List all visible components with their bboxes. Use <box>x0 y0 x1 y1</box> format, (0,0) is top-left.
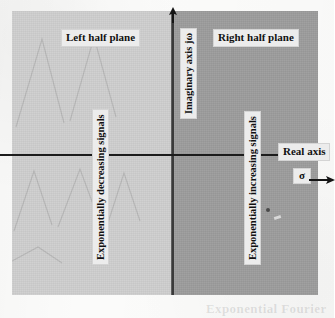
page-bleed-through-text: Exponential Fourier <box>206 301 327 317</box>
label-left-half-plane: Left half plane <box>61 29 140 47</box>
label-exponentially-increasing-signals: Exponentially increasing signals <box>244 111 261 265</box>
label-right-half-plane: Right half plane <box>213 29 299 47</box>
arrow-right-icon <box>309 175 335 185</box>
imaginary-axis-arrow-icon <box>168 7 178 23</box>
real-axis-line <box>0 154 318 156</box>
arrow-up-icon <box>168 7 178 23</box>
label-imaginary-axis: Imaginary axis jω <box>180 28 197 119</box>
label-real-axis: Real axis <box>278 143 330 161</box>
real-axis-arrow-icon <box>309 171 335 181</box>
label-exponentially-decreasing-signals: Exponentially decreasing signals <box>92 109 109 265</box>
imaginary-axis-line <box>172 11 174 295</box>
s-plane-figure: Left half plane Right half plane Real ax… <box>12 11 318 295</box>
